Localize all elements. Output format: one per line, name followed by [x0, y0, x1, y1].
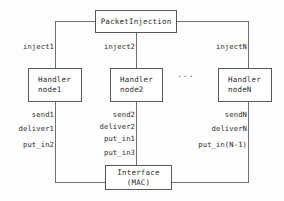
- label-inject1: inject1: [5, 42, 55, 51]
- handler-nodeN-box[interactable]: Handler nodeN: [218, 68, 272, 102]
- label-deliver2: deliver2: [84, 122, 136, 131]
- handler-nodeN-line1: Handler: [228, 75, 271, 85]
- label-put-in1: put_in1: [84, 134, 136, 143]
- label-deliverN: deliverN: [176, 124, 248, 133]
- handler-node2-line2: node2: [120, 85, 162, 95]
- label-put-in3: put_in3: [84, 148, 136, 157]
- packet-injection-label: PacketInjection: [96, 17, 176, 27]
- label-inject2: inject2: [86, 42, 136, 51]
- label-deliver1: deliver1: [3, 124, 55, 133]
- label-injectN: injectN: [198, 42, 248, 51]
- label-send1: send1: [3, 110, 55, 119]
- interface-line1: Interface: [106, 168, 171, 178]
- label-send2: send2: [84, 110, 136, 119]
- diagram-canvas: PacketInjection Handler node1 Handler no…: [0, 0, 284, 201]
- handler-node1-line1: Handler: [38, 75, 81, 85]
- packet-injection-box[interactable]: PacketInjection: [95, 10, 177, 33]
- interface-line2: (MAC): [106, 178, 171, 188]
- handler-node1-line2: node1: [38, 85, 81, 95]
- handler-node2-line1: Handler: [120, 75, 162, 85]
- label-put-in-n-minus-1: put_in(N-1): [176, 140, 248, 149]
- handler-nodeN-line2: nodeN: [228, 85, 271, 95]
- ellipsis-label: ...: [177, 70, 194, 79]
- handler-node1-box[interactable]: Handler node1: [28, 68, 82, 102]
- label-put-in2: put_in2: [3, 140, 55, 149]
- label-sendN: sendN: [176, 110, 248, 119]
- handler-node2-box[interactable]: Handler node2: [110, 68, 163, 102]
- interface-mac-box[interactable]: Interface (MAC): [105, 165, 172, 190]
